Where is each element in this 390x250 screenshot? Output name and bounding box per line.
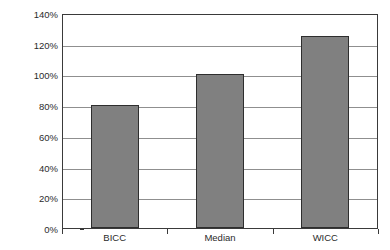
y-tick-label: 120% — [22, 39, 58, 50]
y-tick-label: 80% — [22, 101, 58, 112]
y-tick-label: 60% — [22, 131, 58, 142]
y-axis-tick-labels: 0%20%40%60%80%100%120%140% — [22, 14, 58, 229]
bar-slot — [272, 15, 377, 228]
x-tick-mark — [378, 229, 379, 234]
bar-slot — [168, 15, 273, 228]
y-tick-label: 0% — [22, 224, 58, 235]
bar-median — [196, 74, 244, 228]
y-tick-label: 20% — [22, 193, 58, 204]
plot-area — [62, 14, 378, 229]
bar-slot — [63, 15, 168, 228]
bar-chart-figure: Percentage of Industry Average 0%20%40%6… — [0, 0, 390, 250]
x-tick-label-median: Median — [167, 232, 272, 248]
bar-series — [63, 15, 377, 228]
x-tick-label-wicc: WICC — [273, 232, 378, 248]
y-tick-label: 100% — [22, 70, 58, 81]
bar-bicc — [91, 105, 139, 228]
y-tick-label: 40% — [22, 162, 58, 173]
x-tick-label-bicc: BICC — [62, 232, 167, 248]
y-axis-title: Percentage of Industry Average — [0, 0, 18, 32]
y-tick-label: 140% — [22, 9, 58, 20]
bar-wicc — [301, 36, 349, 228]
x-axis-tick-labels: BICCMedianWICC — [62, 232, 378, 248]
